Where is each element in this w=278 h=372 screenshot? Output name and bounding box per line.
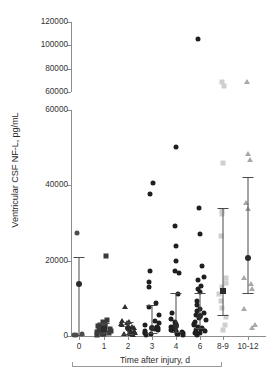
error-bar-cap-lower <box>123 334 134 335</box>
data-point <box>203 329 208 334</box>
error-bar-line <box>223 208 224 315</box>
data-point <box>155 328 160 333</box>
x-tick-label-2: 2 <box>126 342 131 351</box>
x-tick-label-6: 6 <box>198 342 203 351</box>
x-tick <box>200 336 201 340</box>
figure-scatter-plot: Ventricular CSF NF-L, pg/mL Time after i… <box>0 0 278 372</box>
data-point <box>241 306 247 311</box>
data-point <box>142 323 147 328</box>
data-point <box>203 317 208 322</box>
median-marker <box>149 325 155 331</box>
error-bar-cap-upper <box>243 177 254 178</box>
median-marker <box>173 323 179 329</box>
data-point <box>150 181 155 186</box>
error-bar-cap-lower <box>195 328 206 329</box>
error-bar-cap-lower <box>243 293 254 294</box>
y-tick-label-upper: 100000 <box>6 40 68 49</box>
data-point <box>245 151 251 156</box>
error-bar-cap-upper <box>123 322 134 323</box>
error-bar-cap-upper <box>147 305 158 306</box>
data-point <box>157 312 162 317</box>
error-bar-cap-lower <box>99 333 110 334</box>
error-bar-line <box>79 257 80 335</box>
data-point <box>148 191 153 196</box>
x-tick-label-1: 1 <box>102 342 107 351</box>
median-marker <box>125 325 131 331</box>
error-bar-cap-lower <box>171 332 182 333</box>
median-marker <box>76 281 82 287</box>
data-point <box>201 275 206 280</box>
data-point <box>221 83 226 88</box>
y-tick-label-upper: 120000 <box>6 17 68 26</box>
data-point <box>74 230 79 235</box>
data-point <box>223 322 228 327</box>
median-marker <box>245 255 251 261</box>
x-tick-label-0: 0 <box>77 342 82 351</box>
data-point <box>195 278 200 283</box>
data-point <box>177 270 182 275</box>
data-point <box>196 206 201 211</box>
x-tick-label-8-9: 8-9 <box>217 342 229 351</box>
error-bar-line <box>248 177 249 293</box>
data-point <box>147 279 152 284</box>
error-bar-line <box>200 293 201 328</box>
x-axis-range-bracket <box>72 362 222 367</box>
data-point <box>224 281 229 286</box>
x-tick <box>223 336 224 340</box>
error-bar-cap-upper <box>218 208 229 209</box>
x-tick-label-4: 4 <box>174 342 179 351</box>
y-tick-label-lower: 40000 <box>6 180 68 189</box>
data-point <box>221 327 226 332</box>
error-bar-cap-upper <box>171 293 182 294</box>
data-point <box>220 161 225 166</box>
data-point <box>195 332 200 337</box>
error-bar-cap-lower <box>147 333 158 334</box>
data-point <box>172 224 177 229</box>
data-point <box>244 79 250 84</box>
median-marker <box>101 326 107 332</box>
median-marker <box>220 288 226 294</box>
data-point <box>196 36 201 41</box>
y-tick-label-upper: 60000 <box>6 87 68 96</box>
y-tick-label-lower: 60000 <box>6 105 68 114</box>
error-bar-cap-upper <box>195 293 206 294</box>
data-point <box>241 275 247 280</box>
error-bar-cap-lower <box>74 335 85 336</box>
data-point <box>174 145 179 150</box>
y-axis-spine-upper <box>71 22 72 92</box>
error-bar-cap-upper <box>99 323 110 324</box>
data-point <box>148 268 153 273</box>
data-point <box>122 304 128 309</box>
data-point <box>173 259 178 264</box>
median-marker <box>197 313 203 319</box>
y-tick-label-lower: 20000 <box>6 256 68 265</box>
x-tick-label-10-12: 10-12 <box>238 342 259 351</box>
x-tick <box>152 336 153 340</box>
y-tick-label-upper: 80000 <box>6 64 68 73</box>
error-bar-cap-lower <box>218 315 229 316</box>
y-axis-spine-lower <box>71 110 72 336</box>
data-point <box>247 157 253 162</box>
data-point <box>198 231 203 236</box>
data-point <box>224 275 229 280</box>
error-bar-cap-upper <box>74 257 85 258</box>
x-tick-label-3: 3 <box>150 342 155 351</box>
x-tick <box>248 336 249 340</box>
data-point <box>103 254 108 259</box>
y-tick-label-lower: 0 <box>6 331 68 340</box>
data-point <box>249 325 255 330</box>
data-point <box>173 243 178 248</box>
data-point <box>249 286 255 291</box>
data-point <box>147 285 152 290</box>
data-point <box>169 311 174 316</box>
data-point <box>199 263 204 268</box>
